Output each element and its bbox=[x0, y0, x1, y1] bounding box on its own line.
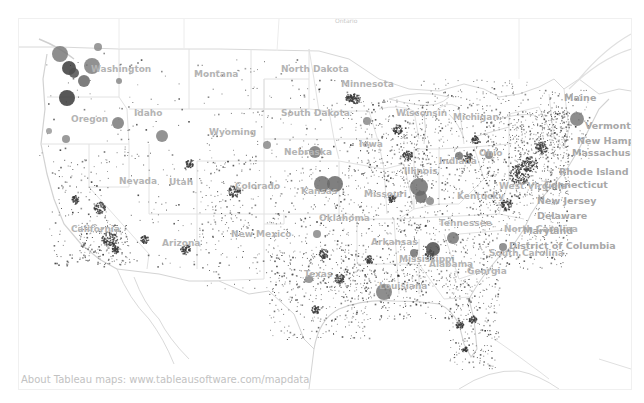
state-label-wisconsin: Wisconsin bbox=[396, 108, 447, 118]
data-circle-20[interactable] bbox=[447, 232, 459, 244]
state-label-iowa: Iowa bbox=[359, 139, 383, 149]
data-circle-11[interactable] bbox=[156, 130, 168, 142]
state-label-south-dakota: South Dakota bbox=[281, 108, 350, 118]
state-label-tennessee: Tennessee bbox=[439, 218, 492, 228]
state-label-new-hamps: New Hamps bbox=[577, 135, 631, 146]
data-points-small bbox=[39, 53, 590, 370]
data-circle-18[interactable] bbox=[415, 191, 427, 203]
state-label-maine: Maine bbox=[564, 92, 596, 103]
state-label-ohio: Ohio bbox=[479, 148, 502, 158]
data-circle-9[interactable] bbox=[62, 135, 70, 143]
state-label-vermont: Vermont bbox=[585, 120, 631, 131]
data-circle-12[interactable] bbox=[263, 141, 271, 149]
label-ontario: Ontario bbox=[335, 19, 358, 24]
state-label-missouri: Missouri bbox=[364, 189, 407, 199]
map-attribution-link[interactable]: About Tableau maps: www.tableausoftware.… bbox=[21, 374, 309, 385]
data-points-large[interactable] bbox=[46, 43, 584, 300]
us-map[interactable]: Ontario WashingtonOregonIdahoMontanaWyom… bbox=[18, 18, 632, 390]
map-canvas[interactable]: Ontario WashingtonOregonIdahoMontanaWyom… bbox=[19, 19, 631, 389]
state-label-montana: Montana bbox=[194, 69, 238, 79]
data-circle-6[interactable] bbox=[116, 78, 122, 84]
state-label-kentucky: Kentucky bbox=[457, 191, 504, 201]
data-circle-3[interactable] bbox=[69, 68, 79, 78]
data-circle-14[interactable] bbox=[363, 117, 371, 125]
state-label-north-dakota: North Dakota bbox=[281, 64, 349, 74]
data-circle-19[interactable] bbox=[426, 197, 434, 205]
data-circle-0[interactable] bbox=[52, 46, 68, 62]
state-label-texas: Texas bbox=[304, 269, 332, 279]
data-circle-7[interactable] bbox=[59, 90, 75, 106]
data-circle-25[interactable] bbox=[570, 112, 584, 126]
state-label-connecticut: Connecticut bbox=[544, 179, 608, 190]
state-label-delaware: Delaware bbox=[537, 210, 587, 221]
state-label-georgia: Georgia bbox=[467, 266, 507, 276]
state-label-utah: Utah bbox=[169, 177, 193, 187]
state-label-kansas: Kansas bbox=[301, 186, 337, 196]
state-label-illinois: Illinois bbox=[404, 166, 438, 176]
state-label-arizona: Arizona bbox=[162, 238, 200, 248]
data-circle-10[interactable] bbox=[46, 128, 52, 134]
data-circle-5[interactable] bbox=[78, 75, 90, 87]
state-label-oregon: Oregon bbox=[71, 114, 108, 124]
state-label-new-jersey: New Jersey bbox=[537, 195, 597, 206]
state-label-michigan: Michigan bbox=[453, 112, 499, 122]
state-label-nebraska: Nebraska bbox=[284, 147, 332, 157]
state-label-wyoming: Wyoming bbox=[209, 127, 256, 137]
data-circle-1[interactable] bbox=[94, 43, 102, 51]
state-label-rhode-island: Rhode Island bbox=[559, 166, 629, 177]
state-label-district-of-columbia: District of Columbia bbox=[509, 240, 616, 251]
state-label-maryland: Maryland bbox=[523, 225, 573, 236]
state-label-minnesota: Minnesota bbox=[341, 79, 394, 89]
state-label-new-mexico: New Mexico bbox=[231, 229, 292, 239]
state-label-colorado: Colorado bbox=[235, 181, 280, 191]
state-label-massachuse: Massachuse bbox=[572, 147, 631, 158]
state-label-oklahoma: Oklahoma bbox=[319, 213, 370, 223]
state-label-idaho: Idaho bbox=[134, 108, 162, 118]
state-label-indiana: Indiana bbox=[439, 156, 477, 166]
data-circle-8[interactable] bbox=[112, 117, 124, 129]
state-label-california: California bbox=[71, 224, 120, 234]
state-label-washington: Washington bbox=[91, 64, 151, 74]
state-label-arkansas: Arkansas bbox=[371, 237, 418, 247]
data-circle-28[interactable] bbox=[313, 230, 321, 238]
state-label-nevada: Nevada bbox=[119, 176, 157, 186]
state-label-louisiana: Louisiana bbox=[379, 281, 427, 291]
